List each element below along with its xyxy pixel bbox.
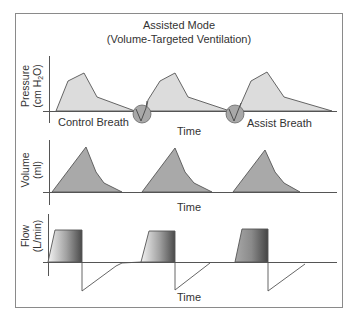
diagram-title: Assisted Mode — [143, 19, 215, 31]
volume-x-label: Time — [177, 201, 201, 213]
flow-inspiration-1 — [48, 230, 82, 262]
trigger-circle-icon — [226, 105, 244, 123]
svg-text:(cm H2O): (cm H2O) — [31, 64, 44, 108]
svg-text:Pressure: Pressure — [19, 65, 31, 107]
pressure-x-label: Time — [177, 125, 201, 137]
pressure-breath-assist-1 — [146, 73, 230, 111]
flow-expiration-1 — [82, 262, 141, 291]
volume-y-label: Volume (ml) — [19, 152, 43, 187]
pressure-panel: Control Breath Assist Breath Time Pressu… — [19, 56, 337, 137]
flow-inspiration-3 — [235, 229, 268, 262]
volume-breath-2 — [142, 148, 212, 192]
svg-text:Volume: Volume — [19, 152, 31, 187]
assist-breath-label: Assist Breath — [247, 117, 312, 129]
flow-panel: Time Flow (L/min) — [19, 214, 337, 303]
pressure-breath-assist-2 — [239, 72, 332, 111]
diagram-subtitle: (Volume-Targeted Ventilation) — [107, 33, 251, 45]
flow-expiration-2 — [175, 262, 210, 290]
volume-panel: Time Volume (ml) — [19, 140, 337, 213]
volume-breath-1 — [52, 147, 122, 192]
pressure-y-label: Pressure (cm H2O) — [19, 64, 44, 108]
flow-x-label: Time — [177, 291, 201, 303]
pressure-breath-control — [56, 73, 135, 111]
svg-text:Flow: Flow — [19, 224, 31, 247]
trigger-circle-icon — [133, 105, 151, 123]
svg-text:(L/min): (L/min) — [31, 220, 43, 253]
flow-inspiration-2 — [141, 231, 175, 262]
flow-expiration-3 — [268, 262, 305, 291]
flow-y-label: Flow (L/min) — [19, 220, 43, 253]
control-breath-label: Control Breath — [58, 116, 129, 128]
svg-text:(ml): (ml) — [31, 161, 43, 179]
volume-breath-3 — [233, 150, 300, 192]
ventilation-diagram: Assisted Mode (Volume-Targeted Ventilati… — [0, 0, 355, 321]
